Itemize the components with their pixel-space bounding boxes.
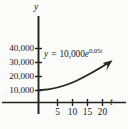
equation-lhs: y (44, 49, 48, 59)
y-tick-label-30000: 30,000 (1, 58, 34, 67)
equation-equals: = (51, 49, 56, 59)
equation-coefficient: 10,000 (59, 49, 84, 59)
equation-annotation: y=10,000e0.05t (44, 48, 102, 60)
equation-exponent: 0.05t (89, 47, 102, 54)
exponential-growth-figure: 40,000 30,000 20,000 10,000 5 10 15 20 y… (0, 0, 128, 129)
exponential-curve (39, 63, 109, 91)
y-tick-label-20000: 20,000 (1, 72, 34, 81)
x-tick-label-20: 20 (93, 108, 112, 117)
y-tick-label-40000: 40,000 (1, 44, 34, 53)
y-tick-label-10000: 10,000 (1, 86, 34, 95)
equation-exponent-variable: t (100, 47, 102, 54)
x-axis-label: t (110, 98, 113, 108)
equation-exponent-coefficient: 0.05 (89, 47, 100, 54)
y-axis-label: y (34, 3, 38, 13)
